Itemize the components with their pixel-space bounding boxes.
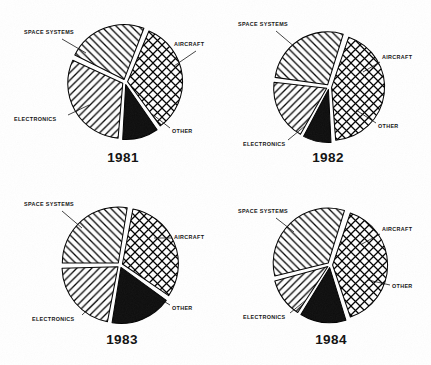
panel-year-1981: 1981 (107, 150, 139, 165)
slice-label-electronics: ELECTRONICS (243, 314, 286, 320)
slice-label-other: OTHER (378, 123, 399, 129)
slice-label-space-systems: SPACE SYSTEMS (238, 21, 288, 27)
slice-label-electronics: ELECTRONICS (243, 141, 286, 147)
panel-year-1983: 1983 (106, 332, 138, 347)
slice-label-electronics: ELECTRONICS (14, 116, 57, 122)
slice-label-other: OTHER (392, 283, 413, 289)
panel-year-1982: 1982 (312, 150, 344, 165)
slice-label-other: OTHER (172, 128, 193, 134)
slice-label-other: OTHER (172, 305, 193, 311)
panel-year-1984: 1984 (315, 332, 347, 347)
slice-label-space-systems: SPACE SYSTEMS (24, 201, 74, 207)
slice-label-aircraft: AIRCRAFT (382, 54, 413, 60)
pie-chart-figure: SPACE SYSTEMSAIRCRAFTELECTRONICSOTHER198… (0, 0, 431, 365)
slice-label-aircraft: AIRCRAFT (174, 41, 205, 47)
slice-label-aircraft: AIRCRAFT (382, 226, 413, 232)
slice-label-space-systems: SPACE SYSTEMS (24, 29, 74, 35)
slice-label-space-systems: SPACE SYSTEMS (238, 208, 288, 214)
slice-label-aircraft: AIRCRAFT (174, 234, 205, 240)
slice-label-electronics: ELECTRONICS (32, 316, 75, 322)
